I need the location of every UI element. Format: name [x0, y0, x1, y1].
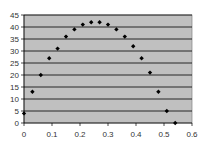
y-tick-label: 20	[10, 71, 19, 80]
x-tick-label: 0.4	[130, 130, 142, 139]
y-tick-label: 15	[10, 83, 19, 92]
x-tick-label: 0.2	[74, 130, 86, 139]
scatter-chart: 051015202530354045 00.10.20.30.40.50.6	[0, 0, 202, 146]
y-tick-label: 25	[10, 59, 19, 68]
y-tick-label: 10	[10, 95, 19, 104]
x-tick-label: 0	[22, 130, 27, 139]
plot-area	[24, 15, 192, 123]
y-tick-label: 45	[10, 11, 19, 20]
y-axis: 051015202530354045	[10, 11, 24, 128]
x-axis: 00.10.20.30.40.50.6	[22, 123, 198, 139]
x-tick-label: 0.6	[186, 130, 198, 139]
x-tick-label: 0.5	[158, 130, 170, 139]
x-tick-label: 0.3	[102, 130, 114, 139]
y-tick-label: 5	[15, 107, 20, 116]
y-tick-label: 40	[10, 23, 19, 32]
y-tick-label: 35	[10, 35, 19, 44]
x-tick-label: 0.1	[46, 130, 58, 139]
y-tick-label: 30	[10, 47, 19, 56]
y-tick-label: 0	[15, 119, 20, 128]
